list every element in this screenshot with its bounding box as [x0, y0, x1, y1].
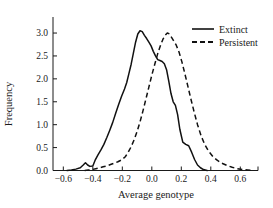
x-tick-label: −0.2 [114, 174, 131, 184]
y-tick-label: 3.0 [36, 28, 48, 38]
x-axis-title: Average genotype [118, 189, 194, 200]
chart-canvas: −0.6−0.4−0.20.00.20.40.6 0.00.51.01.52.0… [0, 0, 273, 208]
y-tick-label: 2.0 [36, 74, 48, 84]
legend: Extinct Persistent [192, 24, 258, 48]
x-tick-label: 0.6 [234, 174, 246, 184]
x-tick-label: −0.4 [84, 174, 101, 184]
x-axis-ticks [63, 167, 258, 171]
legend-label-extinct: Extinct [219, 24, 248, 35]
x-tick-labels: −0.6−0.4−0.20.00.20.40.6 [55, 174, 247, 184]
y-tick-label: 1.0 [36, 120, 48, 130]
y-tick-label: 1.5 [36, 97, 48, 107]
x-tick-label: −0.6 [55, 174, 72, 184]
data-series-group [67, 31, 252, 171]
x-tick-label: 0.2 [175, 174, 187, 184]
legend-label-persistent: Persistent [219, 37, 258, 48]
figure-container: −0.6−0.4−0.20.00.20.40.6 0.00.51.01.52.0… [0, 0, 273, 208]
y-tick-labels: 0.00.51.01.52.02.53.0 [36, 28, 48, 175]
x-tick-label: 0.4 [205, 174, 217, 184]
y-tick-label: 2.5 [36, 51, 48, 61]
series-line-extinct [67, 31, 207, 171]
x-tick-label: 0.0 [146, 174, 158, 184]
series-line-persistent [85, 33, 252, 170]
y-tick-label: 0.0 [36, 166, 48, 176]
y-axis-ticks [53, 33, 57, 170]
y-axis-title: Frequency [3, 81, 14, 126]
y-tick-label: 0.5 [36, 143, 48, 153]
